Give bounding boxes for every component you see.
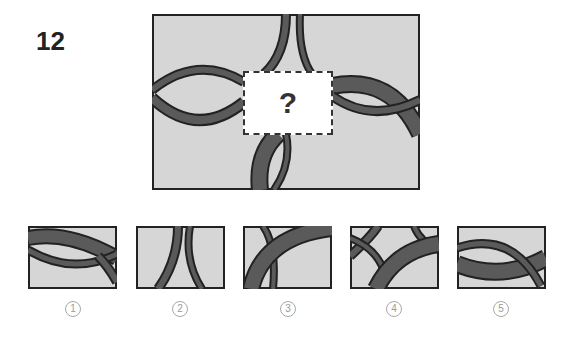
question-number: 12 (36, 26, 65, 57)
option-5[interactable] (457, 226, 546, 289)
option-label-1: 1 (63, 300, 83, 320)
option-2[interactable] (136, 226, 225, 289)
option-label-5: 5 (491, 300, 511, 320)
option-1[interactable] (28, 226, 117, 289)
option-3[interactable] (243, 226, 332, 289)
option-label-4: 4 (384, 300, 404, 320)
missing-piece-box: ? (243, 71, 333, 135)
option-4[interactable] (350, 226, 439, 289)
option-label-2: 2 (170, 300, 190, 320)
question-mark: ? (279, 86, 297, 120)
option-label-3: 3 (278, 300, 298, 320)
